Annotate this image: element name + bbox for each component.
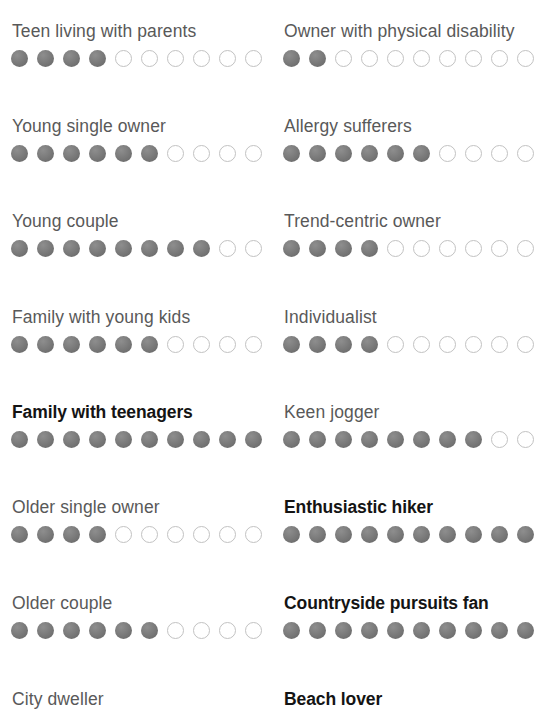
rating-dot-filled[interactable] bbox=[63, 526, 80, 543]
rating-dot-empty[interactable] bbox=[413, 50, 430, 67]
rating-dot-filled[interactable] bbox=[361, 240, 378, 257]
rating-dot-filled[interactable] bbox=[465, 526, 482, 543]
rating-dot-empty[interactable] bbox=[465, 240, 482, 257]
rating-row-older-couple[interactable]: Older couple bbox=[0, 592, 277, 687]
rating-dot-filled[interactable] bbox=[283, 240, 300, 257]
rating-dot-empty[interactable] bbox=[439, 50, 456, 67]
rating-dot-scale[interactable] bbox=[11, 526, 262, 543]
rating-dot-filled[interactable] bbox=[283, 431, 300, 448]
rating-dot-filled[interactable] bbox=[309, 240, 326, 257]
rating-dot-filled[interactable] bbox=[517, 622, 534, 639]
rating-dot-filled[interactable] bbox=[517, 526, 534, 543]
rating-dot-filled[interactable] bbox=[413, 145, 430, 162]
rating-row-young-couple[interactable]: Young couple bbox=[0, 210, 277, 305]
rating-dot-filled[interactable] bbox=[387, 622, 404, 639]
rating-dot-filled[interactable] bbox=[335, 240, 352, 257]
rating-dot-filled[interactable] bbox=[335, 526, 352, 543]
rating-dot-filled[interactable] bbox=[141, 240, 158, 257]
rating-dot-filled[interactable] bbox=[491, 526, 508, 543]
rating-dot-empty[interactable] bbox=[245, 526, 262, 543]
rating-dot-filled[interactable] bbox=[361, 336, 378, 353]
rating-dot-filled[interactable] bbox=[11, 431, 28, 448]
rating-dot-empty[interactable] bbox=[167, 622, 184, 639]
rating-dot-filled[interactable] bbox=[11, 526, 28, 543]
rating-row-individualist[interactable]: Individualist bbox=[272, 306, 549, 401]
rating-dot-filled[interactable] bbox=[141, 622, 158, 639]
rating-dot-empty[interactable] bbox=[167, 145, 184, 162]
rating-dot-empty[interactable] bbox=[193, 336, 210, 353]
rating-dot-empty[interactable] bbox=[219, 336, 236, 353]
rating-dot-empty[interactable] bbox=[335, 50, 352, 67]
rating-dot-empty[interactable] bbox=[245, 622, 262, 639]
rating-row-young-single-owner[interactable]: Young single owner bbox=[0, 115, 277, 210]
rating-dot-filled[interactable] bbox=[413, 526, 430, 543]
rating-dot-empty[interactable] bbox=[167, 526, 184, 543]
rating-dot-empty[interactable] bbox=[387, 336, 404, 353]
rating-dot-empty[interactable] bbox=[361, 50, 378, 67]
rating-dot-empty[interactable] bbox=[465, 336, 482, 353]
rating-dot-scale[interactable] bbox=[11, 622, 262, 639]
rating-dot-scale[interactable] bbox=[11, 50, 262, 67]
rating-dot-empty[interactable] bbox=[387, 50, 404, 67]
rating-dot-filled[interactable] bbox=[219, 431, 236, 448]
rating-dot-empty[interactable] bbox=[115, 526, 132, 543]
rating-dot-empty[interactable] bbox=[517, 145, 534, 162]
rating-row-family-with-teenagers[interactable]: Family with teenagers bbox=[0, 401, 277, 496]
rating-dot-filled[interactable] bbox=[89, 240, 106, 257]
rating-dot-scale[interactable] bbox=[11, 240, 262, 257]
rating-dot-filled[interactable] bbox=[141, 431, 158, 448]
rating-dot-filled[interactable] bbox=[387, 526, 404, 543]
rating-dot-empty[interactable] bbox=[141, 50, 158, 67]
rating-row-city-dweller[interactable]: City dweller bbox=[0, 688, 277, 722]
rating-row-enthusiastic-hiker[interactable]: Enthusiastic hiker bbox=[272, 496, 549, 591]
rating-dot-filled[interactable] bbox=[283, 336, 300, 353]
rating-dot-filled[interactable] bbox=[361, 431, 378, 448]
rating-dot-empty[interactable] bbox=[439, 145, 456, 162]
rating-dot-filled[interactable] bbox=[63, 336, 80, 353]
rating-dot-filled[interactable] bbox=[309, 50, 326, 67]
rating-dot-scale[interactable] bbox=[11, 431, 262, 448]
rating-dot-empty[interactable] bbox=[491, 145, 508, 162]
rating-dot-scale[interactable] bbox=[283, 526, 534, 543]
rating-dot-empty[interactable] bbox=[219, 145, 236, 162]
rating-dot-empty[interactable] bbox=[439, 336, 456, 353]
rating-dot-empty[interactable] bbox=[219, 50, 236, 67]
rating-dot-filled[interactable] bbox=[465, 622, 482, 639]
rating-dot-filled[interactable] bbox=[141, 145, 158, 162]
rating-dot-filled[interactable] bbox=[335, 431, 352, 448]
rating-dot-filled[interactable] bbox=[283, 50, 300, 67]
rating-dot-filled[interactable] bbox=[89, 336, 106, 353]
rating-dot-filled[interactable] bbox=[37, 336, 54, 353]
rating-dot-filled[interactable] bbox=[361, 145, 378, 162]
rating-dot-empty[interactable] bbox=[193, 50, 210, 67]
rating-dot-filled[interactable] bbox=[63, 240, 80, 257]
rating-dot-filled[interactable] bbox=[167, 240, 184, 257]
rating-dot-filled[interactable] bbox=[413, 431, 430, 448]
rating-dot-filled[interactable] bbox=[309, 622, 326, 639]
rating-dot-filled[interactable] bbox=[11, 622, 28, 639]
rating-dot-filled[interactable] bbox=[115, 336, 132, 353]
rating-dot-empty[interactable] bbox=[115, 50, 132, 67]
rating-row-older-single-owner[interactable]: Older single owner bbox=[0, 496, 277, 591]
rating-dot-empty[interactable] bbox=[491, 50, 508, 67]
rating-dot-filled[interactable] bbox=[465, 431, 482, 448]
rating-dot-empty[interactable] bbox=[465, 145, 482, 162]
rating-dot-filled[interactable] bbox=[335, 622, 352, 639]
rating-dot-filled[interactable] bbox=[37, 50, 54, 67]
rating-dot-filled[interactable] bbox=[439, 526, 456, 543]
rating-dot-empty[interactable] bbox=[219, 240, 236, 257]
rating-row-keen-jogger[interactable]: Keen jogger bbox=[272, 401, 549, 496]
rating-row-countryside-pursuits-fan[interactable]: Countryside pursuits fan bbox=[272, 592, 549, 687]
rating-dot-filled[interactable] bbox=[361, 526, 378, 543]
rating-dot-empty[interactable] bbox=[491, 336, 508, 353]
rating-dot-empty[interactable] bbox=[465, 50, 482, 67]
rating-dot-filled[interactable] bbox=[63, 50, 80, 67]
rating-dot-filled[interactable] bbox=[89, 622, 106, 639]
rating-dot-empty[interactable] bbox=[491, 431, 508, 448]
rating-dot-empty[interactable] bbox=[517, 240, 534, 257]
rating-dot-filled[interactable] bbox=[141, 336, 158, 353]
rating-dot-empty[interactable] bbox=[193, 622, 210, 639]
rating-dot-empty[interactable] bbox=[413, 336, 430, 353]
rating-dot-filled[interactable] bbox=[245, 431, 262, 448]
rating-dot-empty[interactable] bbox=[387, 240, 404, 257]
